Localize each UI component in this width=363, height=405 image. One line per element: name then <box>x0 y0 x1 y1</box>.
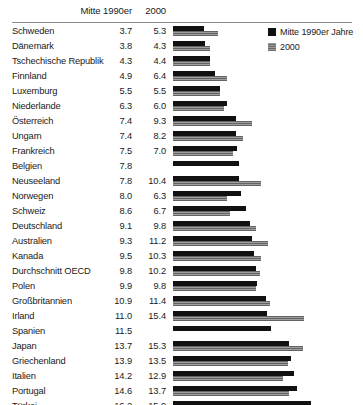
bar-2000 <box>173 286 256 291</box>
chart-row: Finnland4.96.4 <box>0 69 363 84</box>
chart-row: Luxemburg5.55.5 <box>0 84 363 99</box>
bar-2000 <box>173 136 243 141</box>
row-value-2000: 10.2 <box>136 266 166 276</box>
row-country-label: Neuseeland <box>12 176 60 186</box>
row-bar-group <box>173 326 363 338</box>
bar-2000 <box>173 316 304 321</box>
row-country-label: Italien <box>12 371 36 381</box>
row-country-label: Spanien <box>12 326 45 336</box>
bar-2000 <box>173 151 233 156</box>
row-bar-group <box>173 41 363 53</box>
bar-2000 <box>173 361 288 366</box>
row-value-2000: 10.3 <box>136 251 166 261</box>
row-value-2000: 11.2 <box>136 236 166 246</box>
row-value-mid1990s: 7.8 <box>60 161 132 171</box>
row-bar-group <box>173 56 363 68</box>
row-value-mid1990s: 3.7 <box>60 26 132 36</box>
bar-2000 <box>173 106 224 111</box>
bar-mid1990s <box>173 326 271 331</box>
row-value-2000: 6.4 <box>136 71 166 81</box>
row-value-2000: 9.8 <box>136 281 166 291</box>
row-country-label: Portugal <box>12 386 45 396</box>
row-value-mid1990s: 13.9 <box>60 356 132 366</box>
row-country-label: Luxemburg <box>12 86 57 96</box>
row-value-mid1990s: 10.9 <box>60 296 132 306</box>
chart-container: Mitte 1990er 2000 Mitte 1990er Jahre2000… <box>0 0 363 405</box>
bar-2000 <box>173 181 261 186</box>
row-value-mid1990s: 16.2 <box>60 401 132 405</box>
chart-row: Griechenland13.913.5 <box>0 354 363 369</box>
row-country-label: Türkei <box>12 401 37 405</box>
row-value-mid1990s: 4.3 <box>60 56 132 66</box>
row-country-label: Niederlande <box>12 101 60 111</box>
chart-row: Dänemark3.84.3 <box>0 39 363 54</box>
row-value-2000: 9.3 <box>136 116 166 126</box>
row-bar-group <box>173 251 363 263</box>
row-value-mid1990s: 9.3 <box>60 236 132 246</box>
bar-2000 <box>173 226 256 231</box>
row-value-mid1990s: 4.9 <box>60 71 132 81</box>
row-value-2000: 10.4 <box>136 176 166 186</box>
row-value-mid1990s: 7.5 <box>60 146 132 156</box>
row-bar-group <box>173 281 363 293</box>
row-bar-group <box>173 26 363 38</box>
chart-row: Kanada9.510.3 <box>0 249 363 264</box>
row-country-label: Kanada <box>12 251 43 261</box>
row-value-mid1990s: 8.0 <box>60 191 132 201</box>
chart-row: Frankreich7.57.0 <box>0 144 363 159</box>
bar-2000 <box>173 346 303 351</box>
chart-row: Irland11.015.4 <box>0 309 363 324</box>
bar-2000 <box>173 61 210 66</box>
row-value-mid1990s: 11.0 <box>60 311 132 321</box>
row-bar-group <box>173 191 363 203</box>
chart-row: Österreich7.49.3 <box>0 114 363 129</box>
row-country-label: Schweden <box>12 26 54 36</box>
row-country-label: Griechenland <box>12 356 66 366</box>
row-value-mid1990s: 5.5 <box>60 86 132 96</box>
row-country-label: Norwegen <box>12 191 53 201</box>
chart-row: Australien9.311.2 <box>0 234 363 249</box>
bar-2000 <box>173 91 220 96</box>
chart-row: Spanien11.5 <box>0 324 363 339</box>
row-value-2000: 15.9 <box>136 401 166 405</box>
row-country-label: Finnland <box>12 71 46 81</box>
row-value-mid1990s: 9.8 <box>60 266 132 276</box>
row-value-2000: 8.2 <box>136 131 166 141</box>
row-value-2000: 9.8 <box>136 221 166 231</box>
row-value-2000: 15.3 <box>136 341 166 351</box>
row-bar-group <box>173 86 363 98</box>
row-value-2000: 4.3 <box>136 41 166 51</box>
row-country-label: Australien <box>12 236 52 246</box>
row-bar-group <box>173 206 363 218</box>
row-country-label: Polen <box>12 281 35 291</box>
row-bar-group <box>173 221 363 233</box>
chart-row: Tschechische Republik4.34.4 <box>0 54 363 69</box>
column-header-mid1990s: Mitte 1990er <box>60 5 132 16</box>
chart-row: Schweden3.75.3 <box>0 24 363 39</box>
row-bar-group <box>173 266 363 278</box>
chart-row: Polen9.99.8 <box>0 279 363 294</box>
row-value-mid1990s: 7.8 <box>60 176 132 186</box>
row-country-label: Dänemark <box>12 41 54 51</box>
header-divider <box>12 22 352 23</box>
row-bar-group <box>173 311 363 323</box>
row-value-2000: 15.4 <box>136 311 166 321</box>
chart-row: Italien14.212.9 <box>0 369 363 384</box>
row-bar-group <box>173 71 363 83</box>
bar-2000 <box>173 241 268 246</box>
bar-2000 <box>173 211 230 216</box>
row-country-label: Japan <box>12 341 37 351</box>
bar-2000 <box>173 271 260 276</box>
row-value-mid1990s: 14.6 <box>60 386 132 396</box>
row-value-mid1990s: 7.4 <box>60 131 132 141</box>
row-bar-group <box>173 401 363 405</box>
row-value-mid1990s: 13.7 <box>60 341 132 351</box>
row-value-2000: 5.3 <box>136 26 166 36</box>
chart-row: Belgien7.8 <box>0 159 363 174</box>
row-value-2000: 13.7 <box>136 386 166 396</box>
row-bar-group <box>173 236 363 248</box>
row-country-label: Frankreich <box>12 146 54 156</box>
row-value-2000: 11.4 <box>136 296 166 306</box>
row-value-mid1990s: 8.6 <box>60 206 132 216</box>
row-value-2000: 12.9 <box>136 371 166 381</box>
